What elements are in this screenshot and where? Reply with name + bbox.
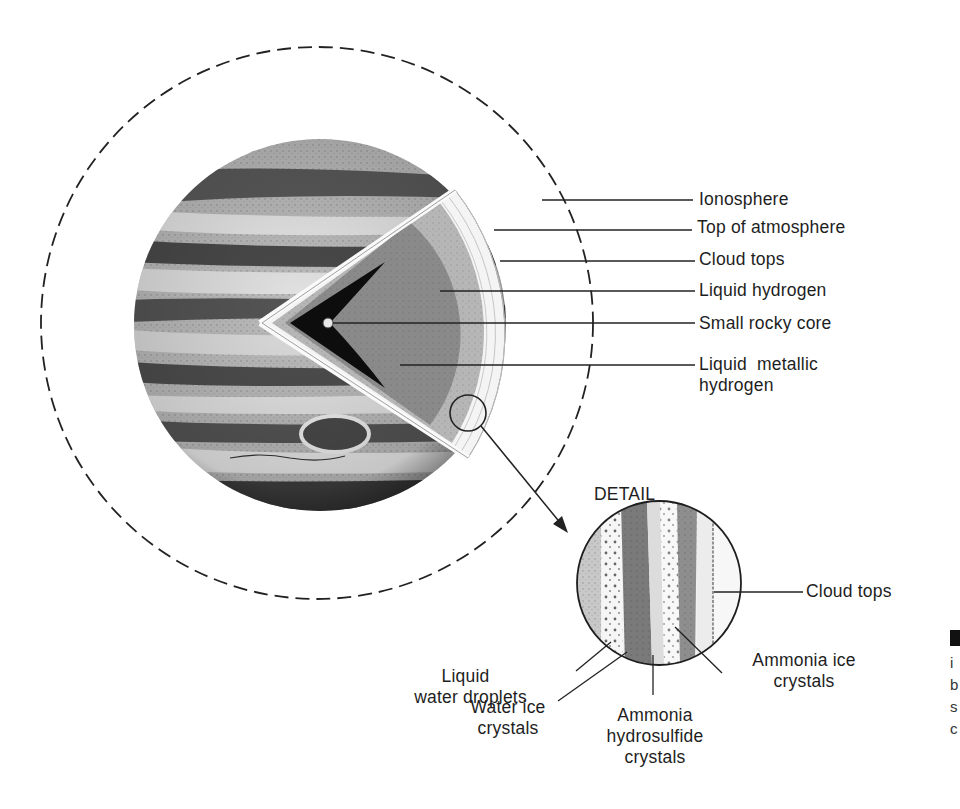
detail-label-cloud-tops: Cloud tops	[806, 581, 892, 602]
caption-fragment: i b s c	[950, 630, 960, 740]
label-cloud-tops: Cloud tops	[699, 249, 785, 270]
caption-line-3: s	[950, 698, 958, 715]
caption-line-2: b	[950, 676, 958, 693]
label-liquid-metallic-hydrogen: Liquid metallic hydrogen	[699, 354, 818, 396]
detail-label-water-ice-crystals-line1: Water ice	[470, 697, 545, 717]
detail-circle	[577, 501, 744, 665]
detail-label-ammonia-hydrosulfide-line1: Ammonia	[617, 705, 692, 725]
detail-label-ammonia-ice-crystals-line1: Ammonia ice	[752, 650, 855, 670]
label-liquid-metallic-hydrogen-line2: hydrogen	[699, 375, 774, 395]
detail-arrowhead	[553, 516, 568, 533]
detail-label-ammonia-ice-crystals-line2: crystals	[774, 671, 835, 691]
detail-label-ammonia-ice-crystals: Ammonia ice crystals	[738, 650, 870, 692]
detail-label-ammonia-hydrosulfide-line2: hydrosulfide	[607, 726, 704, 746]
caption-line-4: c	[950, 720, 958, 737]
label-liquid-hydrogen: Liquid hydrogen	[699, 280, 827, 301]
detail-label-water-ice-crystals-line2: crystals	[478, 718, 539, 738]
caption-line-1: i	[950, 654, 953, 671]
rocky-core	[323, 318, 333, 328]
label-ionosphere: Ionosphere	[699, 189, 789, 210]
detail-label-water-ice-crystals: Water ice crystals	[460, 697, 556, 739]
detail-label-liquid-water-droplets-line1: Liquid	[442, 666, 490, 686]
label-top-of-atmosphere: Top of atmosphere	[697, 217, 845, 238]
label-liquid-metallic-hydrogen-line1: Liquid metallic	[699, 354, 818, 374]
label-small-rocky-core: Small rocky core	[699, 313, 832, 334]
detail-label-ammonia-hydrosulfide-line3: crystals	[625, 747, 686, 767]
detail-label-ammonia-hydrosulfide-crystals: Ammonia hydrosulfide crystals	[595, 705, 715, 768]
detail-heading: DETAIL	[594, 484, 655, 505]
caption-bold-marker	[950, 630, 960, 646]
